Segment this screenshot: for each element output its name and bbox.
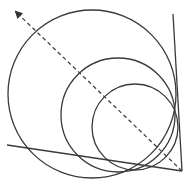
diagram-canvas [0,0,190,188]
circle-medium [61,58,175,172]
right-line [173,14,182,171]
circles-group [8,10,178,178]
angle-lines-group [7,14,182,171]
circle-large [8,10,176,178]
